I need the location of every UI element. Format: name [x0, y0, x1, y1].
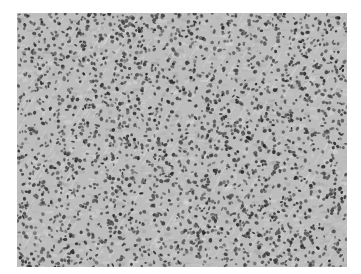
micrograph-canvas [17, 13, 347, 267]
histology-micrograph [17, 13, 347, 267]
